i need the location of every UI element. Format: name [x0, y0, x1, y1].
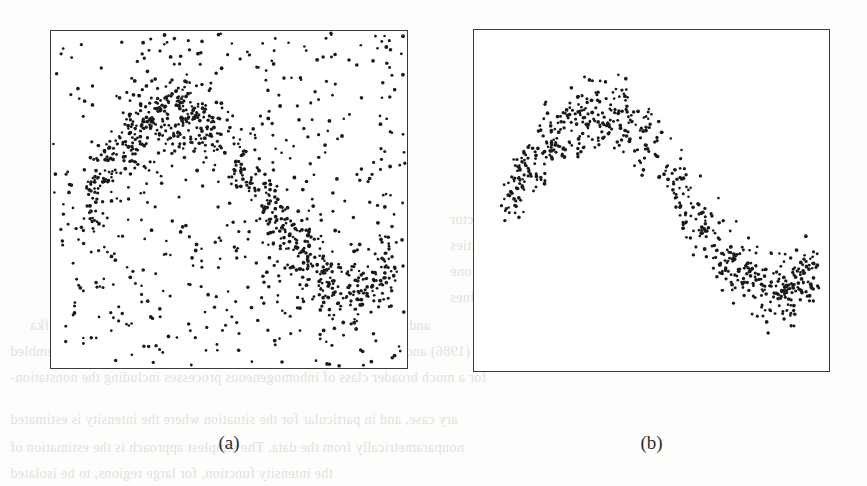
- caption-panel-b: (b): [622, 432, 682, 454]
- scatter-plot-b: [474, 30, 829, 371]
- caption-panel-a: (a): [199, 432, 259, 454]
- scatter-plot-a: [51, 31, 407, 368]
- bleed-text-line: for a much broader class of inhomogeneou…: [10, 370, 486, 386]
- bleed-text-line: ary case, and in particular for the situ…: [10, 412, 458, 428]
- bleed-text-line: the intensity function, for large region…: [10, 466, 333, 482]
- figure-page: 1.1 Introductionthe following. Consider …: [0, 0, 867, 486]
- scatter-panel-a: [50, 30, 408, 369]
- scatter-panel-b: [473, 29, 830, 372]
